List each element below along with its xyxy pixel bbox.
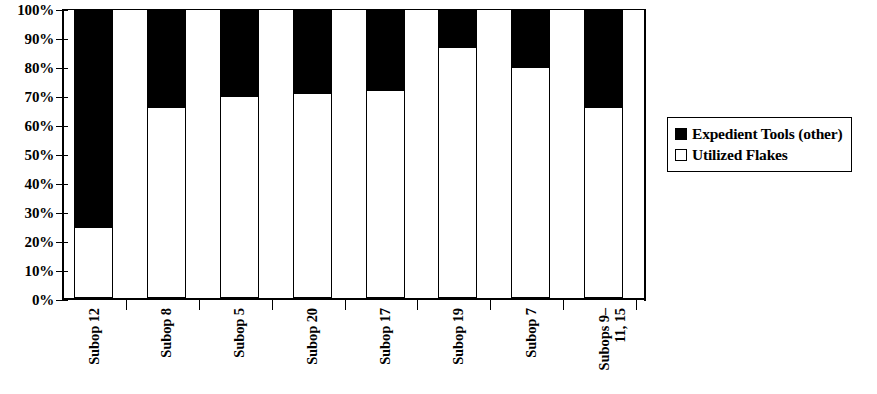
x-axis-tick-mark	[272, 300, 273, 310]
legend-swatch-utilized-flakes-icon	[675, 149, 687, 161]
bar-segment-expedient-tools	[294, 11, 331, 94]
bar-segment-utilized-flakes	[148, 108, 185, 297]
y-axis-tick-label: 60%	[0, 118, 54, 134]
bar-subop-5[interactable]	[220, 10, 259, 298]
y-axis-tick-label: 10%	[0, 263, 54, 279]
y-axis-tick-label: 20%	[0, 234, 54, 250]
y-axis-tick-mark	[56, 10, 68, 11]
bar-segment-expedient-tools	[148, 11, 185, 108]
bar-subop-19[interactable]	[438, 10, 477, 298]
bar-subop-7[interactable]	[511, 10, 550, 298]
bar-segment-utilized-flakes	[512, 68, 549, 297]
y-axis-tick-mark	[56, 300, 68, 301]
bar-segment-expedient-tools	[512, 11, 549, 68]
x-axis-category-label: Subop 5	[231, 308, 247, 394]
y-axis-tick-mark	[56, 68, 68, 69]
y-axis-tick-mark	[56, 97, 68, 98]
y-axis-tick-mark	[56, 242, 68, 243]
y-axis-tick-label: 90%	[0, 31, 54, 47]
y-axis-tick-mark	[56, 184, 68, 185]
x-axis-tick-mark	[417, 300, 418, 310]
stacked-bar-chart-figure: 100%90%80%70%60%50%40%30%20%10%0% Expedi…	[0, 0, 877, 394]
bar-segment-expedient-tools	[367, 11, 404, 91]
x-axis-category-label: Subop 17	[377, 308, 393, 394]
bar-subop-8[interactable]	[147, 10, 186, 298]
plot-right-border	[644, 10, 646, 301]
y-axis-tick-label: 80%	[0, 60, 54, 76]
x-axis-category-label: Subops 9– 11, 15	[596, 308, 628, 394]
y-axis-tick-label: 100%	[0, 2, 54, 18]
bar-segment-expedient-tools	[439, 11, 476, 48]
x-axis-category-label: Subop 12	[86, 308, 102, 394]
legend-item[interactable]: Expedient Tools (other)	[675, 123, 842, 144]
legend-label: Expedient Tools (other)	[692, 125, 842, 143]
chart-legend: Expedient Tools (other) Utilized Flakes	[667, 117, 852, 172]
x-axis-category-label: Subop 7	[523, 308, 539, 394]
bar-subop-12[interactable]	[74, 10, 113, 298]
plot-area	[62, 10, 645, 300]
y-axis-tick-label: 40%	[0, 176, 54, 192]
y-axis-tick-mark	[56, 271, 68, 272]
x-axis-category-label: Subop 20	[304, 308, 320, 394]
bar-subop-20[interactable]	[293, 10, 332, 298]
y-axis-tick-label: 30%	[0, 205, 54, 221]
legend-label: Utilized Flakes	[692, 146, 788, 164]
y-axis-tick-label: 70%	[0, 89, 54, 105]
bar-segment-utilized-flakes	[439, 48, 476, 297]
x-axis-tick-mark	[345, 300, 346, 310]
x-axis-tick-mark	[126, 300, 127, 310]
x-axis-tick-mark	[636, 300, 637, 310]
y-axis-tick-label: 0%	[0, 292, 54, 308]
y-axis-tick-mark	[56, 155, 68, 156]
legend-swatch-expedient-tools-icon	[675, 128, 687, 140]
legend-item[interactable]: Utilized Flakes	[675, 144, 842, 165]
bar-segment-utilized-flakes	[585, 108, 622, 297]
bar-segment-utilized-flakes	[367, 91, 404, 297]
y-axis-tick-mark	[56, 39, 68, 40]
bar-segment-expedient-tools	[75, 11, 112, 228]
y-axis: 100%90%80%70%60%50%40%30%20%10%0%	[0, 0, 54, 394]
x-axis-category-label: Subop 8	[158, 308, 174, 394]
y-axis-tick-mark	[56, 213, 68, 214]
bar-segment-utilized-flakes	[294, 94, 331, 297]
y-axis-tick-label: 50%	[0, 147, 54, 163]
bar-subops-9-11-15[interactable]	[584, 10, 623, 298]
x-axis-tick-mark	[199, 300, 200, 310]
bar-segment-expedient-tools	[221, 11, 258, 97]
x-axis-tick-mark	[563, 300, 564, 310]
x-axis-tick-mark	[490, 300, 491, 310]
bar-segment-utilized-flakes	[221, 97, 258, 297]
bar-segment-expedient-tools	[585, 11, 622, 108]
x-axis-category-label: Subop 19	[450, 308, 466, 394]
bar-segment-utilized-flakes	[75, 228, 112, 297]
y-axis-tick-mark	[56, 126, 68, 127]
bar-subop-17[interactable]	[366, 10, 405, 298]
